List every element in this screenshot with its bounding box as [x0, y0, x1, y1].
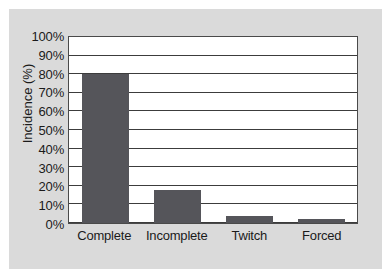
plot-area	[68, 36, 358, 224]
bar-twitch	[226, 216, 273, 223]
y-axis-tick-label: 100%	[20, 29, 64, 44]
x-axis-tick-label-complete: Complete	[68, 228, 141, 243]
y-axis-tick-label: 70%	[20, 85, 64, 100]
chart-figure: Incidence (%) 0%10%20%30%40%50%60%70%80%…	[0, 0, 391, 278]
bar-series	[69, 37, 357, 223]
bar-slot	[285, 37, 357, 223]
x-axis-tick-label-incomplete: Incomplete	[141, 228, 214, 243]
y-axis-tick-label: 40%	[20, 141, 64, 156]
y-axis-tick-label: 80%	[20, 66, 64, 81]
y-axis-tick-label: 20%	[20, 179, 64, 194]
y-axis-tick-label: 10%	[20, 198, 64, 213]
bar-slot	[141, 37, 213, 223]
y-axis-tick-label: 90%	[20, 47, 64, 62]
y-axis-tick-label: 60%	[20, 104, 64, 119]
bar-slot	[69, 37, 141, 223]
y-axis-tick-label: 30%	[20, 160, 64, 175]
x-axis-tick-label-twitch: Twitch	[213, 228, 286, 243]
bar-slot	[213, 37, 285, 223]
y-axis-tick-label: 50%	[20, 123, 64, 138]
y-axis-tick-labels: 0%10%20%30%40%50%60%70%80%90%100%	[14, 36, 64, 224]
bar-complete	[82, 74, 129, 223]
bar-incomplete	[154, 190, 201, 223]
x-axis-tick-labels: CompleteIncompleteTwitchForced	[68, 228, 358, 243]
x-axis-tick-label-forced: Forced	[286, 228, 359, 243]
y-axis-tick-label: 0%	[20, 217, 64, 232]
bar-forced	[298, 219, 345, 223]
